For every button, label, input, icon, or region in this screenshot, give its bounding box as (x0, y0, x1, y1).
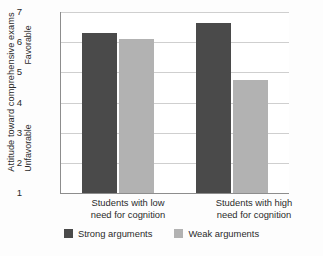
x-tick-label-high-need: Students with high need for cognition (192, 197, 316, 220)
y-axis-anchor-unfavorable: Unfavorable (20, 105, 36, 195)
bar-weak-group-1 (233, 80, 268, 193)
plot-area: 1234567 (60, 12, 289, 194)
x-tick-label-line1: Students with low (66, 197, 190, 209)
y-axis-anchor-favorable-text: Favorable (23, 14, 33, 76)
bar-strong-group-0 (82, 33, 117, 193)
legend-swatch-icon-weak (174, 229, 183, 238)
y-tick-label-2: 2 (4, 158, 22, 168)
legend-swatch-icon-strong (64, 229, 73, 238)
y-tick-label-3: 3 (4, 128, 22, 138)
y-tick-label-7: 7 (4, 7, 22, 17)
bar-chart-figure: Attitude toward comprehensive exams Favo… (0, 0, 323, 256)
legend-label-weak: Weak arguments (188, 228, 259, 239)
bar-weak-group-0 (119, 39, 154, 193)
y-tick-label-5: 5 (4, 67, 22, 77)
y-tick-label-1: 1 (4, 188, 22, 198)
x-tick-label-line2: need for cognition (192, 209, 316, 221)
gridline-y-7 (61, 12, 289, 13)
y-axis-anchor-unfavorable-text: Unfavorable (23, 110, 33, 186)
x-tick-label-low-need: Students with low need for cognition (66, 197, 190, 220)
legend-label-strong: Strong arguments (78, 228, 153, 239)
x-tick-label-line1: Students with high (192, 197, 316, 209)
y-tick-label-6: 6 (4, 37, 22, 47)
chart-legend: Strong arguments Weak arguments (0, 228, 323, 239)
y-axis-anchor-favorable: Favorable (20, 10, 36, 90)
bar-strong-group-1 (196, 23, 231, 193)
y-tick-label-4: 4 (4, 98, 22, 108)
x-tick-label-line2: need for cognition (66, 209, 190, 221)
y-axis-title-text: Attitude toward comprehensive exams (6, 4, 16, 180)
legend-entry-strong-arguments: Strong arguments (64, 228, 153, 239)
legend-entry-weak-arguments: Weak arguments (174, 228, 259, 239)
